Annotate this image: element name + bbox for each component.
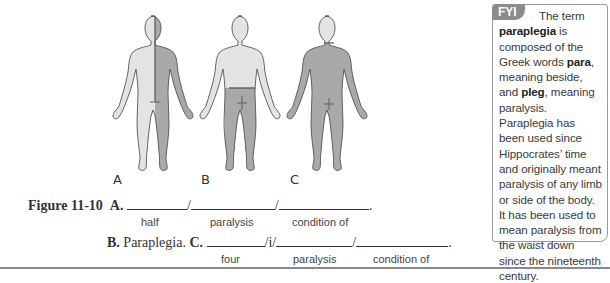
figure-label-b: B [201, 172, 210, 187]
page-divider [0, 267, 610, 269]
hint-c-four: four [221, 253, 240, 265]
blank-c-3[interactable] [356, 234, 448, 247]
blank-c-1[interactable] [207, 234, 265, 247]
hint-a-paralysis: paralysis [210, 216, 253, 228]
figure-a-hemiplegia [110, 10, 200, 180]
term-pleg: pleg [521, 85, 544, 98]
hint-c-condition: condition of [373, 253, 429, 265]
hint-a-condition: condition of [292, 216, 348, 228]
caption-line-bc: B. Paraplegia. C. /i//. [107, 234, 452, 251]
term-paraplegia: paraplegia [499, 24, 556, 37]
fyi-sidebar: FYI The term paraplegia is composed of t… [492, 4, 608, 242]
caption-line-a: Figure 11-10 A. //. [28, 197, 372, 214]
blank-a-1[interactable] [127, 197, 187, 210]
figure-label-a: A [113, 172, 122, 187]
fyi-tab: FYI [492, 4, 525, 20]
figure-b-paraplegia [197, 10, 287, 180]
hint-a-half: half [141, 216, 159, 228]
blank-c-2[interactable] [276, 234, 352, 247]
term-para: para [567, 55, 591, 68]
body-figures: A B C [110, 10, 380, 185]
figure-label-c: C [290, 172, 299, 187]
blank-a-3[interactable] [279, 197, 369, 210]
figure-c-quadriplegia [284, 10, 374, 180]
blank-a-2[interactable] [191, 197, 275, 210]
fyi-text: The term paraplegia is composed of the G… [493, 5, 607, 283]
figure-label: Figure 11-10 [28, 198, 103, 213]
hint-c-paralysis: paralysis [293, 253, 336, 265]
